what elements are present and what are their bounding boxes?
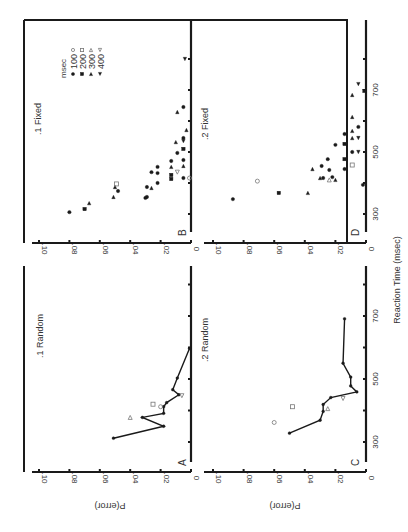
data-point-circle	[162, 425, 165, 428]
data-point-triangle-up	[89, 48, 92, 51]
data-point-triangle-up	[170, 165, 173, 168]
data-point-square	[170, 173, 173, 176]
data-point-circle	[255, 179, 259, 183]
panel-title-A: .1 Random	[35, 314, 45, 358]
data-point-triangle-up	[351, 115, 354, 118]
data-point-circle	[145, 195, 148, 198]
data-point-circle	[141, 416, 144, 419]
rt-tick-label: 700	[371, 83, 380, 97]
data-point-circle	[182, 158, 185, 161]
data-point-triangle-down	[357, 150, 360, 153]
data-point-triangle-up	[112, 195, 115, 198]
data-point-triangle-up	[182, 164, 185, 167]
p-tick-label: .10	[214, 243, 223, 255]
data-point-circle	[156, 171, 159, 174]
data-point-square	[343, 142, 346, 145]
panel-C-plot	[272, 317, 358, 434]
data-point-square	[343, 157, 346, 160]
p-tick-label: .08	[245, 243, 254, 255]
data-point-square	[277, 191, 280, 194]
data-point-triangle-up	[150, 186, 153, 189]
data-point-circle	[71, 48, 74, 51]
panel-title-C: .2 Random	[200, 318, 210, 362]
p-tick-label: .08	[70, 243, 79, 255]
p-tick-label: .04	[306, 472, 315, 484]
p-tick-label: .06	[101, 472, 110, 484]
data-point-circle	[322, 403, 325, 406]
data-point-triangle-up	[351, 93, 354, 96]
data-point-circle	[321, 176, 324, 179]
data-point-circle	[145, 185, 148, 188]
data-point-circle	[165, 401, 168, 404]
x-axis-title: Reaction Time (msec)	[392, 236, 402, 324]
data-point-circle	[150, 170, 153, 173]
p-tick-label: .06	[275, 243, 284, 255]
data-point-triangle-down	[98, 48, 101, 51]
data-point-triangle-up	[351, 129, 354, 132]
data-point-circle	[343, 167, 346, 170]
p-tick-label: .10	[40, 472, 49, 484]
panel-B-plot	[68, 57, 192, 214]
p-tick-label: .10	[214, 472, 223, 484]
data-point-circle	[176, 151, 179, 154]
data-point-circle	[182, 105, 185, 108]
rt-tick-label: 500	[371, 145, 380, 159]
data-point-triangle-down	[182, 139, 185, 142]
panel-letter-D: D	[350, 229, 361, 236]
data-point-circle	[272, 420, 276, 424]
data-point-circle	[171, 388, 174, 391]
mean-line	[290, 319, 357, 433]
data-point-circle	[156, 181, 159, 184]
data-point-circle	[343, 317, 346, 320]
figure-canvas: 0.02.04.06.08.100.02.04.06.08.100.02.04.…	[0, 0, 408, 532]
data-point-circle	[351, 150, 354, 153]
data-point-circle	[156, 165, 159, 168]
data-point-triangle-down	[175, 170, 179, 174]
data-point-triangle-down	[180, 394, 184, 398]
data-point-square	[350, 163, 354, 167]
p-tick-label: .02	[162, 243, 171, 255]
p-tick-label: .10	[40, 243, 49, 255]
p-tick-label: .08	[245, 472, 254, 484]
data-point-circle	[328, 168, 331, 171]
p-tick-label: .06	[101, 243, 110, 255]
p-tick-label: 0	[367, 476, 376, 481]
data-point-circle	[71, 72, 74, 75]
legend: msec 100200300400	[59, 48, 106, 78]
data-point-square	[182, 147, 185, 150]
rt-tick-label: 300	[371, 207, 380, 221]
p-tick-label: 0	[367, 247, 376, 252]
rt-tick-label: 500	[371, 372, 380, 386]
p-tick-label: .04	[306, 243, 315, 255]
data-point-circle	[182, 136, 185, 139]
panel-title-B: .1 Fixed	[33, 103, 43, 135]
data-point-square	[170, 177, 173, 180]
data-point-circle	[116, 189, 119, 192]
data-point-triangle-up	[311, 167, 314, 170]
p-tick-label: 0	[192, 476, 201, 481]
data-point-triangle-up	[351, 136, 354, 139]
data-point-circle	[170, 159, 173, 162]
data-point-triangle-down	[183, 57, 186, 60]
data-point-triangle-up	[176, 110, 179, 113]
p-tick-label: .06	[275, 472, 284, 484]
p-tick-label: .08	[70, 472, 79, 484]
data-point-triangle-down	[98, 72, 101, 75]
data-point-circle	[331, 175, 334, 178]
legend-entry-label: 400	[96, 54, 106, 69]
data-point-triangle-up	[326, 407, 330, 411]
p-tick-label: .04	[131, 472, 140, 484]
data-point-circle	[288, 432, 291, 435]
data-point-square	[363, 89, 366, 92]
data-point-circle	[182, 176, 185, 179]
data-point-circle	[342, 362, 345, 365]
data-point-circle	[349, 385, 352, 388]
data-point-circle	[112, 437, 115, 440]
data-point-triangle-up	[89, 72, 92, 75]
axis-labels: 0.02.04.06.08.100.02.04.06.08.100.02.04.…	[40, 83, 380, 484]
data-point-circle	[322, 410, 325, 413]
data-point-triangle-up	[174, 140, 177, 143]
rt-tick-label: 700	[371, 309, 380, 323]
data-point-circle	[355, 391, 358, 394]
data-point-circle	[349, 376, 352, 379]
